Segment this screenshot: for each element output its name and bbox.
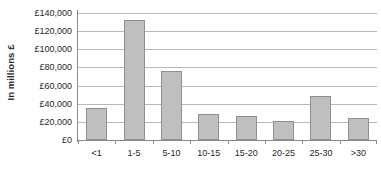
x-tick-mark (115, 140, 116, 144)
bar[interactable] (236, 116, 257, 140)
bar-slot (302, 13, 339, 140)
x-tick-mark (376, 140, 377, 144)
bars-layer (78, 13, 377, 140)
y-tick-label: £140,000 (34, 8, 72, 18)
y-tick-label: £0 (62, 135, 72, 145)
y-tick-label: £20,000 (39, 117, 72, 127)
bar-slot (115, 13, 152, 140)
x-axis-label: 15-20 (228, 148, 265, 164)
y-tick-label: £120,000 (34, 26, 72, 36)
x-tick-group (153, 140, 190, 144)
y-axis-tick-labels: £140,000 £120,000 £100,000 £80,000 £60,0… (18, 13, 74, 140)
bar[interactable] (161, 71, 182, 140)
x-axis-label: >30 (340, 148, 377, 164)
x-axis-label: 10-15 (190, 148, 227, 164)
x-tick-mark (340, 140, 341, 144)
plot-area (78, 13, 377, 140)
x-axis-tick-marks (78, 140, 377, 144)
y-tick-label: £60,000 (39, 81, 72, 91)
bar[interactable] (124, 20, 145, 140)
y-axis-title: In millions £ (0, 0, 20, 145)
x-tick-group (115, 140, 152, 144)
x-tick-group (302, 140, 339, 144)
bar-chart: In millions £ £140,000 £120,000 £100,000… (0, 0, 381, 169)
x-tick-mark (153, 140, 154, 144)
bar[interactable] (348, 118, 369, 140)
x-axis-label: 1-5 (115, 148, 152, 164)
bar[interactable] (310, 96, 331, 140)
x-axis-tick-labels: <11-55-1010-1515-2020-2525-30>30 (78, 148, 377, 164)
y-tick-label: £80,000 (39, 62, 72, 72)
x-axis-label: 5-10 (153, 148, 190, 164)
bar-slot (265, 13, 302, 140)
x-tick-group (340, 140, 377, 144)
bar-slot (190, 13, 227, 140)
x-tick-mark (190, 140, 191, 144)
bar[interactable] (273, 121, 294, 140)
bar-slot (153, 13, 190, 140)
bar-slot (340, 13, 377, 140)
y-axis-title-text: In millions £ (5, 44, 16, 100)
x-tick-mark (302, 140, 303, 144)
x-tick-group (265, 140, 302, 144)
x-tick-mark (228, 140, 229, 144)
x-tick-group (190, 140, 227, 144)
bar-slot (78, 13, 115, 140)
x-axis-label: 25-30 (302, 148, 339, 164)
bar[interactable] (86, 108, 107, 140)
x-axis-label: <1 (78, 148, 115, 164)
x-tick-mark (265, 140, 266, 144)
y-tick-label: £40,000 (39, 99, 72, 109)
x-axis-label: 20-25 (265, 148, 302, 164)
y-tick-label: £100,000 (34, 44, 72, 54)
bar-slot (228, 13, 265, 140)
x-tick-group (78, 140, 115, 144)
x-tick-group (228, 140, 265, 144)
bar[interactable] (198, 114, 219, 140)
x-tick-mark (78, 140, 79, 144)
